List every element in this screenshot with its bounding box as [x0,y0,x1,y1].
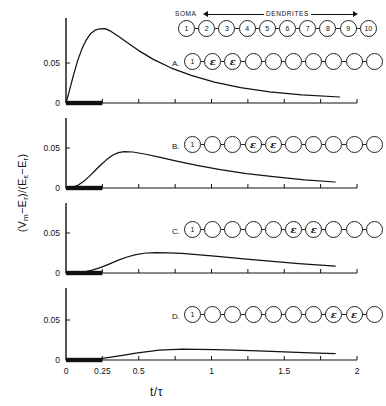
panel-D-chain-node-4 [245,306,262,323]
panel-A-chain-synapse-3: ε [224,53,241,70]
panel-D-chain-synapse-9: ε [346,306,363,323]
panel-letter-C: C. [172,227,180,236]
y-tick-label-B-0: 0 [12,183,60,193]
y-tick-label-D-0: 0 [12,355,60,365]
y-tick-label-A-1: 0.05 [12,58,60,68]
panel-A-chain: 1εε [184,53,386,75]
panel-A-chain-node-7 [305,53,322,70]
panel-B-chain-node-2 [204,136,221,153]
panel-D-chain-synapse-8: ε [325,306,342,323]
x-tick-label-5: 2 [347,366,367,376]
y-tick-label-C-1: 0.05 [12,228,60,238]
panel-B-chain-node-9 [346,136,363,153]
panel-C-chain-synapse-7: ε [305,221,322,238]
panel-B-chain-node-6 [285,136,302,153]
panel-A-chain-node-4 [245,53,262,70]
x-tick-label-4: 1.5 [274,366,294,376]
panel-C-chain-node-8 [325,221,342,238]
panel-C-chain-node-3 [224,221,241,238]
header-chain-node-8: 8 [319,20,336,37]
panel-B-chain: 1εε [184,136,386,158]
panel-B-chain-node-7 [305,136,322,153]
header-chain-node-9: 9 [340,20,357,37]
panel-letter-A: A. [172,59,180,68]
panel-D-chain-node-2 [204,306,221,323]
header-chain-node-7: 7 [299,20,316,37]
header-chain-node-6: 6 [279,20,296,37]
panel-A-chain-synapse-2: ε [204,53,221,70]
soma-header-label: SOMA [175,10,197,17]
panel-C-chain-node-2 [204,221,221,238]
panel-C-chain: 1εε [184,221,386,243]
panel-B-chain-node-10 [366,136,383,153]
panel-C-chain-node-10 [366,221,383,238]
response-curve-D [66,349,335,360]
panel-B-chain-synapse-4: ε [245,136,262,153]
panel-C-chain-node-5 [265,221,282,238]
panel-A-chain-node-5 [265,53,282,70]
x-tick-label-3: 1 [202,366,222,376]
header-chain-node-1: 1 [178,20,195,37]
panel-D-chain: 1εε [184,306,386,328]
header-rule-left [208,14,264,15]
panel-A-chain-node-8 [325,53,342,70]
y-tick-label-C-0: 0 [12,268,60,278]
panel-D-chain-node-6 [285,306,302,323]
panel-A-chain-node-9 [346,53,363,70]
x-tick-label-1: 0.25 [92,366,112,376]
stimulus-bar-A [66,101,102,105]
panel-B-chain-soma: 1 [184,136,201,153]
panel-D-chain-node-3 [224,306,241,323]
header-chain-node-5: 5 [259,20,276,37]
panel-A-chain-soma: 1 [184,53,201,70]
panel-C-chain-synapse-6: ε [285,221,302,238]
y-tick-label-B-1: 0.05 [12,143,60,153]
x-tick-label-0: 0 [56,366,76,376]
panel-C-chain-node-9 [346,221,363,238]
header-chain-node-2: 2 [198,20,215,37]
panel-letter-D: D. [172,312,180,321]
panel-letter-B: B. [172,142,180,151]
panel-B-chain-node-3 [224,136,241,153]
panel-B-chain-node-8 [325,136,342,153]
dendrites-header-label: DENDRITES [266,10,309,17]
arrow-right-icon [353,11,358,17]
panel-D-chain-node-10 [366,306,383,323]
panel-D-chain-node-7 [305,306,322,323]
panel-C-chain-soma: 1 [184,221,201,238]
header-rule-right [311,14,354,15]
panel-D-chain-node-5 [265,306,282,323]
panel-D-chain-soma: 1 [184,306,201,323]
header-chain-node-3: 3 [218,20,235,37]
header-chain: 12345678910 [178,20,380,42]
panel-A-chain-node-10 [366,53,383,70]
response-curve-C [66,253,335,273]
header-chain-node-4: 4 [239,20,256,37]
panel-A-chain-node-6 [285,53,302,70]
header-chain-node-10: 10 [360,20,377,37]
x-tick-label-2: 0.5 [129,366,149,376]
panel-B-chain-synapse-5: ε [265,136,282,153]
y-tick-label-A-0: 0 [12,98,60,108]
panel-C-chain-node-4 [245,221,262,238]
y-tick-label-D-1: 0.05 [12,315,60,325]
